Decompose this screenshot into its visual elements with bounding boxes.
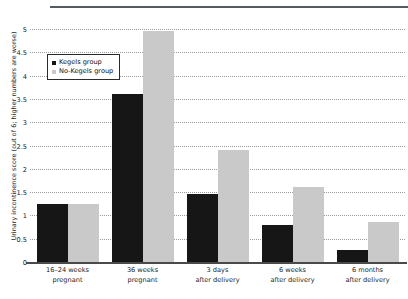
legend: Kegels group No-Kegels group: [47, 54, 120, 80]
x-axis-category-label: 16–24 weekspregnant: [30, 266, 105, 285]
y-axis-tick-label: 1: [23, 212, 27, 220]
light-square-icon: [52, 70, 56, 74]
legend-item-label: Kegels group: [59, 58, 102, 67]
y-axis-tick-label: 4: [23, 73, 27, 81]
bar: [293, 187, 324, 262]
bar-group: [337, 29, 399, 262]
x-axis-line: [26, 262, 407, 264]
bar: [337, 250, 368, 262]
y-axis-tick-label: 2: [23, 166, 27, 174]
y-axis-tick-label: 3: [23, 119, 27, 127]
y-axis-tick-label: 5: [23, 26, 27, 34]
dark-square-icon: [52, 61, 56, 65]
bar-group: [187, 29, 249, 262]
y-axis-tick-label: 4.5: [17, 49, 28, 57]
y-axis-tick-label: 0.5: [17, 236, 28, 244]
y-axis-tick-label: 2.5: [17, 143, 28, 151]
bar-group: [262, 29, 324, 262]
bar-chart: Urinary incontinence score (out of 6; hi…: [0, 0, 408, 299]
bar-group: [112, 29, 174, 262]
bar: [187, 194, 218, 262]
x-axis-labels: 16–24 weekspregnant36 weekspregnant3 day…: [30, 266, 405, 298]
bar: [68, 204, 99, 262]
legend-item: Kegels group: [52, 58, 113, 67]
legend-item-label: No-Kegels group: [59, 67, 113, 76]
bar: [218, 150, 249, 262]
x-axis-category-label: 6 weeksafter delivery: [255, 266, 330, 285]
y-axis-tick-label: 1.5: [17, 189, 28, 197]
x-axis-category-label: 3 daysafter delivery: [180, 266, 255, 285]
bar: [37, 204, 68, 262]
y-axis-tick-label: 3.5: [17, 96, 28, 104]
x-axis-category-label: 6 monthsafter delivery: [330, 266, 405, 285]
bar: [368, 222, 399, 262]
bar: [143, 31, 174, 262]
y-axis-title: Urinary incontinence score (out of 6; hi…: [10, 6, 18, 266]
bar: [112, 94, 143, 262]
bar: [262, 225, 293, 262]
top-divider-rule: [50, 6, 408, 8]
legend-item: No-Kegels group: [52, 67, 113, 76]
x-axis-category-label: 36 weekspregnant: [105, 266, 180, 285]
